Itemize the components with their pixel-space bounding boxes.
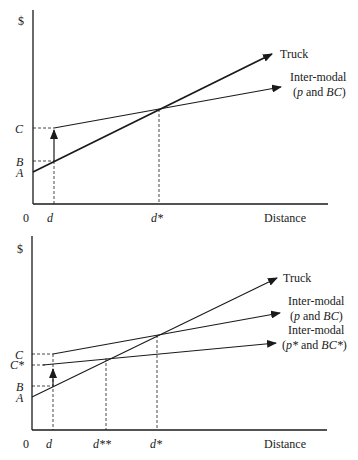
intermodal-legend-line2: (p and BC) — [293, 85, 346, 99]
top-panel: $ C B A 0 d d* Distance Truck Inter-moda… — [15, 10, 347, 225]
intermodal-legend-line2: (p and BC) — [290, 309, 343, 323]
tick-label-d-star: d* — [150, 437, 162, 451]
origin-label: 0 — [23, 437, 29, 451]
intermodal-legend-line1: Inter-modal — [288, 294, 345, 308]
tick-label-a: A — [15, 391, 24, 405]
guide-lines — [32, 335, 157, 430]
tick-label-a: A — [15, 166, 24, 180]
x-axis-label: Distance — [264, 211, 306, 225]
x-axis-label: Distance — [264, 437, 306, 451]
truck-legend: Truck — [280, 47, 308, 61]
tick-label-d: d — [46, 437, 53, 451]
truck-line — [33, 54, 272, 172]
guide-lines — [33, 109, 159, 204]
tick-label-c: C — [15, 122, 24, 136]
tick-label-d: d — [47, 211, 54, 225]
tick-label-c-star: C* — [10, 358, 24, 372]
tick-label-d-star: d* — [151, 211, 163, 225]
tick-label-d-double-star: d** — [93, 437, 111, 451]
origin-label: 0 — [23, 211, 29, 225]
intermodal-star-legend-line2: (p* and BC*) — [282, 338, 347, 352]
diagram-canvas: $ C B A 0 d d* Distance Truck Inter-moda… — [0, 0, 358, 460]
y-axis-label: $ — [18, 14, 24, 28]
bottom-panel: $ C C* B A 0 d d** d* Distance Truck Int… — [10, 236, 347, 451]
intermodal-line — [53, 313, 280, 354]
intermodal-legend-line1: Inter-modal — [290, 70, 347, 84]
truck-line — [32, 278, 277, 397]
intermodal-line — [54, 87, 281, 128]
intermodal-star-line — [43, 343, 276, 365]
truck-legend: Truck — [283, 271, 311, 285]
intermodal-star-legend-line1: Inter-modal — [288, 323, 345, 337]
y-axis-label: $ — [17, 242, 23, 256]
